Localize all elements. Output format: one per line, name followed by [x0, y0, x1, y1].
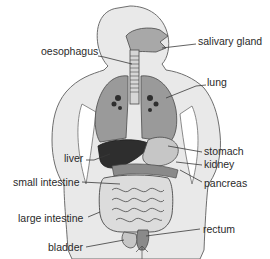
- label-liver: liver: [64, 152, 83, 164]
- label-pancreas: pancreas: [204, 177, 247, 189]
- label-salivary-gland: salivary gland: [198, 35, 262, 47]
- label-kidney: kidney: [204, 158, 234, 170]
- label-rectum: rectum: [203, 223, 235, 235]
- digestive-system-diagram: oesophagus salivary gland lung liver sto…: [0, 0, 270, 259]
- label-bladder: bladder: [48, 241, 83, 253]
- trachea: [130, 50, 139, 104]
- label-oesophagus: oesophagus: [41, 45, 98, 57]
- label-large-intestine: large intestine: [18, 212, 83, 224]
- label-small-intestine: small intestine: [13, 176, 80, 188]
- label-stomach: stomach: [204, 145, 244, 157]
- label-lung: lung: [207, 76, 227, 88]
